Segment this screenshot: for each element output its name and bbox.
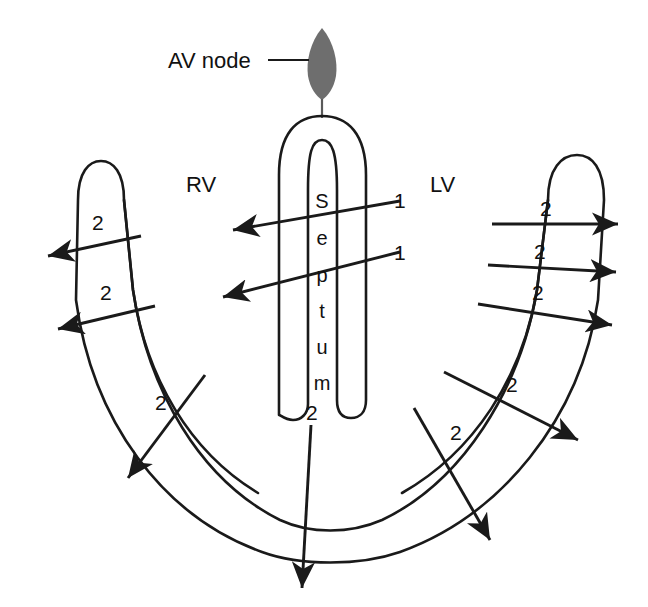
lv-label: LV — [430, 172, 456, 197]
septal-arrow-upper-label: 1 — [394, 189, 406, 212]
av-node-group — [308, 28, 337, 118]
rv-arrow-mid-label: 2 — [100, 281, 112, 304]
lv-arrow-lower-label: 2 — [532, 281, 544, 304]
av-node-label: AV node — [168, 48, 251, 73]
lv-arrow-upper-label: 2 — [540, 197, 552, 220]
lv-arrow-mid: 2 — [488, 240, 616, 272]
septum-letter-m: m — [314, 372, 331, 394]
rv-arrow-apical: 2 — [128, 375, 205, 478]
lv-arrow-apical-upper-label: 2 — [506, 373, 518, 396]
lv-arrow-lower-line — [478, 304, 612, 325]
av-node-shape — [308, 28, 337, 100]
lv-arrow-lower: 2 — [478, 281, 612, 325]
lv-inner-wall-contour — [402, 200, 548, 493]
lv-arrow-mid-label: 2 — [534, 240, 546, 263]
apex-arrow-label: 2 — [306, 401, 318, 424]
rv-arrow-upper-line — [48, 236, 141, 256]
septal-arrow-lower-label: 1 — [394, 241, 406, 264]
septum-letter-u: u — [316, 336, 327, 358]
septal-arrow-lower: 1 — [223, 241, 406, 297]
lv-arrow-apical-upper: 2 — [444, 372, 578, 440]
septal-arrow-lower-line — [223, 252, 400, 297]
rv-arrow-upper-label: 2 — [92, 211, 104, 234]
heart-cross-section-svg: 1 1 2 2 2 2 2 2 — [0, 0, 648, 607]
lv-arrow-upper: 2 — [492, 197, 618, 224]
lv-arrow-apical-lower-label: 2 — [450, 421, 462, 444]
septum-letter-s: S — [315, 190, 328, 212]
outer-ventricular-wall — [76, 155, 604, 563]
apex-arrow-line — [302, 425, 311, 588]
rv-arrow-apical-label: 2 — [155, 391, 167, 414]
apex-arrow: 2 — [302, 401, 318, 588]
lv-arrow-mid-line — [488, 265, 616, 272]
septum-letter-p: p — [316, 264, 327, 286]
septum-label: S e p t u m — [314, 190, 331, 394]
cardiac-conduction-diagram: 1 1 2 2 2 2 2 2 — [0, 0, 648, 607]
septum-letter-e: e — [316, 227, 327, 249]
rv-label: RV — [186, 172, 216, 197]
rv-inner-wall-contour — [124, 200, 258, 493]
septum-letter-t: t — [319, 300, 325, 322]
